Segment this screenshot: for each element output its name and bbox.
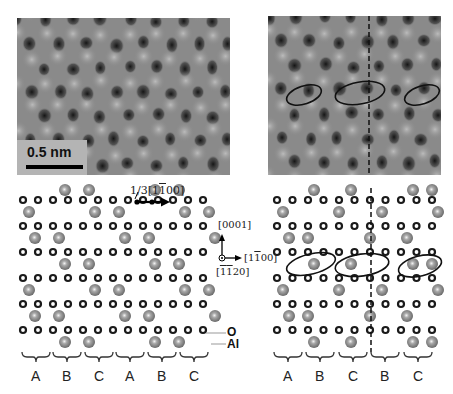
stacking-label-left-0: A (31, 368, 40, 384)
axis-label-1-100: [1100] (244, 252, 277, 263)
axis-label-0001: [0001] (218, 219, 251, 230)
stacking-label-left-5: C (189, 368, 199, 384)
stacking-label-right-2: C (348, 368, 358, 384)
axis-triad (219, 234, 242, 261)
atomic-model-left (20, 184, 221, 348)
stacking-label-left-2: C (94, 368, 104, 384)
stacking-label-right-3: B (380, 368, 389, 384)
stacking-braces (22, 352, 432, 362)
stacking-label-left-3: A (125, 368, 134, 384)
shift-vector-label: 1/3[1100] (130, 184, 184, 197)
stacking-label-right-1: B (315, 368, 324, 384)
axis-label-11-20: [1120] (216, 266, 249, 277)
stacking-label-left-1: B (62, 368, 71, 384)
stacking-label-right-0: A (283, 368, 292, 384)
legend-al-label: Al (227, 337, 239, 351)
atomic-model-right (274, 184, 444, 348)
model-ellipse (334, 250, 391, 279)
stacking-label-left-4: B (157, 368, 166, 384)
stacking-label-right-4: C (413, 368, 423, 384)
